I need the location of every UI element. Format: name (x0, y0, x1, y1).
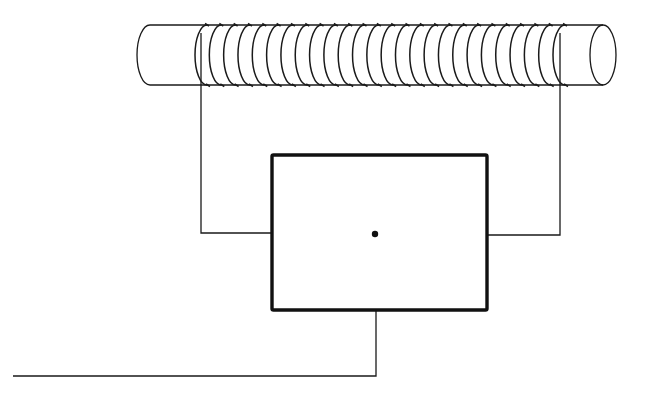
coil-winding (553, 25, 565, 85)
device-box-outline (272, 155, 487, 310)
coil-winding (381, 25, 393, 85)
coil-winding (295, 25, 307, 85)
coil-winding (238, 25, 250, 85)
solenoid-coil (195, 24, 568, 87)
coil-winding (252, 25, 264, 85)
cylinder-right-end (590, 25, 616, 85)
coil-winding (224, 25, 236, 85)
cylinder-left-end (137, 25, 150, 85)
coil-winding (496, 25, 508, 85)
diagram-canvas (0, 0, 646, 404)
coil-winding (510, 25, 522, 85)
coil-winding (539, 25, 551, 85)
output-lead (13, 310, 376, 376)
coil-winding (267, 25, 279, 85)
coil-winding (524, 25, 536, 85)
center-dot (372, 231, 378, 237)
coil-winding (324, 25, 336, 85)
coil-winding (353, 25, 365, 85)
coil-winding (209, 25, 221, 85)
left-coil-lead (201, 33, 272, 233)
coil-winding (481, 25, 493, 85)
right-coil-lead (487, 33, 560, 235)
coil-winding (453, 25, 465, 85)
coil-winding (367, 25, 379, 85)
coil-winding (410, 25, 422, 85)
coil-winding (467, 25, 479, 85)
coil-winding (338, 25, 350, 85)
device-box (272, 155, 487, 310)
coil-winding (281, 25, 293, 85)
coil-winding (424, 25, 436, 85)
coil-winding (310, 25, 322, 85)
coil-winding (438, 25, 450, 85)
solenoid-circuit-diagram (0, 0, 646, 404)
coil-winding (395, 25, 407, 85)
